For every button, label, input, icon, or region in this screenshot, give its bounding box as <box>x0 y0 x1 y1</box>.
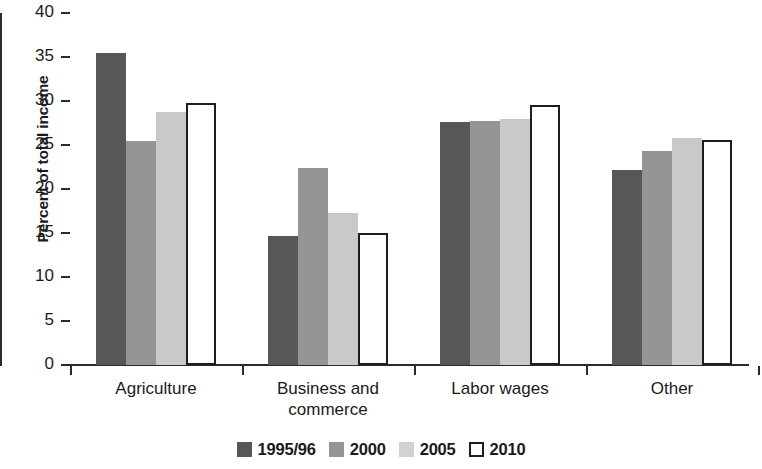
bar <box>612 170 642 365</box>
white-outline-swatch <box>469 442 484 457</box>
x-axis-category-label: Agriculture <box>66 378 246 399</box>
bar <box>156 112 186 365</box>
x-axis-tick <box>242 366 244 375</box>
y-axis-tick-label: 5 <box>8 310 54 330</box>
bar <box>500 119 530 365</box>
y-axis-tick-label: 40 <box>8 2 54 22</box>
bar <box>470 121 500 365</box>
legend-item[interactable]: 1995/96 <box>237 440 316 459</box>
legend-item-label: 2005 <box>420 440 456 459</box>
y-axis-tick-label: 10 <box>8 266 54 286</box>
light-gray-swatch <box>399 442 414 457</box>
bar <box>268 236 298 365</box>
y-axis-tick-label: 35 <box>8 46 54 66</box>
y-axis-tick-label: 30 <box>8 90 54 110</box>
x-axis-category-label: Labor wages <box>410 378 590 399</box>
y-axis-line <box>0 13 2 366</box>
y-axis-tick-label: 20 <box>8 178 54 198</box>
legend-item[interactable]: 2000 <box>329 440 386 459</box>
x-axis-category-label: Business and commerce <box>238 378 418 420</box>
y-axis-tick-label: 15 <box>8 222 54 242</box>
bars-layer <box>69 13 749 365</box>
legend-item-label: 1995/96 <box>258 440 316 459</box>
bar <box>96 53 126 365</box>
legend-item-label: 2000 <box>350 440 386 459</box>
bar <box>126 141 156 365</box>
bar <box>358 233 388 365</box>
legend-item[interactable]: 2010 <box>469 440 526 459</box>
x-axis-tick <box>70 366 72 375</box>
y-axis-tick-label: 25 <box>8 134 54 154</box>
bar <box>298 168 328 365</box>
x-axis-category-label: Other <box>582 378 762 399</box>
bar <box>672 138 702 365</box>
dark-gray-swatch <box>237 442 252 457</box>
bar <box>328 213 358 365</box>
x-axis-tick <box>586 366 588 375</box>
chart-legend: 1995/96200020052010 <box>0 440 762 459</box>
x-axis-tick <box>758 366 760 375</box>
x-axis-tick <box>414 366 416 375</box>
bar-chart: Percent of total income 0510152025303540… <box>0 0 762 469</box>
y-axis-tick-label: 0 <box>8 354 54 374</box>
bar <box>440 122 470 365</box>
bar <box>642 151 672 365</box>
legend-item-label: 2010 <box>490 440 526 459</box>
bar <box>186 103 216 365</box>
legend-item[interactable]: 2005 <box>399 440 456 459</box>
bar <box>702 140 732 365</box>
bar <box>530 105 560 365</box>
y-axis-title: Percent of total income <box>34 34 52 284</box>
medium-gray-swatch <box>329 442 344 457</box>
